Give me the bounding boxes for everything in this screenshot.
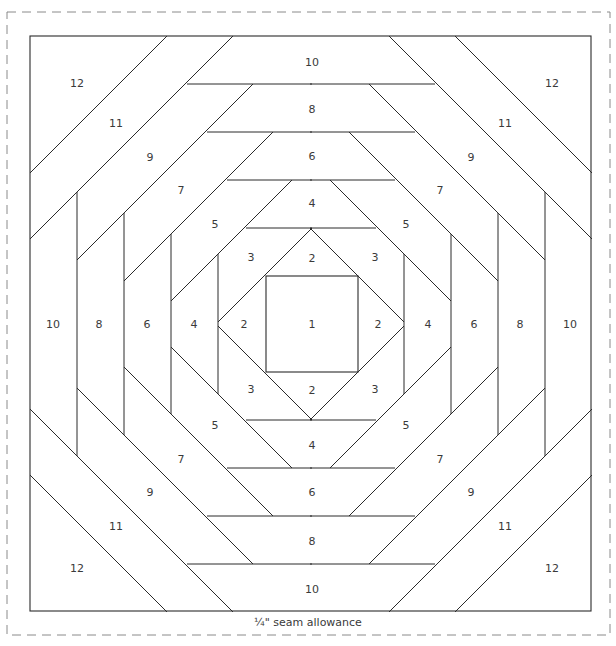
piece-label: 6 [309, 486, 316, 499]
piece-label: 5 [403, 419, 410, 432]
piece-label: 3 [372, 251, 379, 264]
seam-line [369, 84, 545, 260]
seam-line [218, 326, 312, 420]
piece-label: 8 [517, 318, 524, 331]
seam-line [218, 228, 312, 322]
pattern-svg: 1222233334444555566667777888899991010101… [0, 0, 616, 646]
piece-label: 6 [309, 150, 316, 163]
seam-line [455, 36, 592, 173]
piece-label: 4 [191, 318, 198, 331]
pattern-diagram: 1222233334444555566667777888899991010101… [0, 0, 616, 646]
seam-line [77, 84, 253, 260]
piece-label: 3 [372, 383, 379, 396]
piece-label: 11 [109, 117, 123, 130]
seam-line [389, 409, 592, 612]
piece-label: 3 [248, 251, 255, 264]
piece-label: 5 [212, 218, 219, 231]
piece-label: 6 [144, 318, 151, 331]
seam-line [30, 36, 233, 239]
piece-label: 3 [248, 383, 255, 396]
seam-line [310, 228, 404, 322]
piece-label: 5 [403, 218, 410, 231]
piece-label: 9 [468, 151, 475, 164]
piece-label: 7 [437, 453, 444, 466]
seam-line [310, 326, 404, 420]
piece-label: 9 [468, 486, 475, 499]
piece-label: 2 [375, 318, 382, 331]
piece-label: 12 [545, 562, 559, 575]
piece-label: 10 [46, 318, 60, 331]
piece-label: 11 [109, 520, 123, 533]
seam-line [30, 409, 233, 612]
seam-line [330, 347, 451, 468]
piece-label: 10 [305, 56, 319, 69]
piece-label: 7 [178, 453, 185, 466]
piece-number-labels: 1222233334444555566667777888899991010101… [46, 56, 577, 596]
piece-label: 12 [70, 562, 84, 575]
piece-label: 4 [309, 439, 316, 452]
piece-label: 10 [563, 318, 577, 331]
seam-line [171, 180, 292, 301]
seam-line [77, 388, 253, 564]
piece-label: 11 [498, 117, 512, 130]
piece-label: 8 [309, 535, 316, 548]
piece-label: 1 [309, 318, 316, 331]
piece-label: 7 [178, 184, 185, 197]
piece-label: 10 [305, 583, 319, 596]
seam-line [330, 180, 451, 301]
piece-label: 2 [241, 318, 248, 331]
seam-line [455, 475, 592, 612]
piece-label: 12 [545, 77, 559, 90]
seam-allowance-label: ¼" seam allowance [0, 616, 616, 629]
piece-label: 7 [437, 184, 444, 197]
piece-label: 2 [309, 252, 316, 265]
piece-label: 8 [96, 318, 103, 331]
piece-label: 4 [425, 318, 432, 331]
piece-label: 11 [498, 520, 512, 533]
piece-label: 8 [309, 103, 316, 116]
seam-line [389, 36, 592, 239]
piece-label: 12 [70, 77, 84, 90]
piece-label: 9 [147, 151, 154, 164]
piece-label: 5 [212, 419, 219, 432]
seam-line [171, 347, 292, 468]
piece-label: 2 [309, 384, 316, 397]
piece-label: 6 [471, 318, 478, 331]
piece-label: 9 [147, 486, 154, 499]
seam-line [369, 388, 545, 564]
piece-label: 4 [309, 197, 316, 210]
